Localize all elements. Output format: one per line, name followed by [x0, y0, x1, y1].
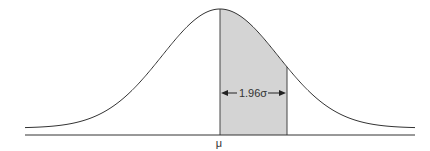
mean-label: μ — [216, 137, 222, 149]
normal-distribution-diagram: 1.96σ μ — [0, 0, 430, 151]
interval-label: 1.96σ — [239, 87, 267, 99]
diagram-canvas: 1.96σ μ — [0, 0, 430, 151]
